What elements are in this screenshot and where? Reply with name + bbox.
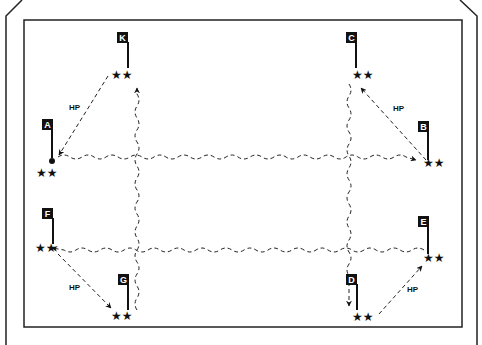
- station-a: A ★★: [36, 119, 58, 180]
- start-point-dot: [49, 158, 55, 164]
- wavy-path-top: [58, 155, 416, 160]
- hp-path-b-to-c: [361, 88, 426, 160]
- hp-path-k-to-a: [59, 76, 108, 155]
- star-icon: ★★: [423, 251, 445, 265]
- hp-label-top-right: HP: [393, 104, 405, 113]
- station-f: F ★★: [35, 208, 57, 255]
- station-label-d: D: [348, 275, 355, 285]
- hp-label-bottom-right: HP: [407, 285, 419, 294]
- station-label-a: A: [44, 120, 51, 130]
- star-icon: ★★: [111, 68, 133, 82]
- wavy-path-left-vertical: [135, 88, 139, 310]
- star-icon: ★★: [36, 166, 58, 180]
- star-icon: ★★: [423, 156, 445, 170]
- station-c: C ★★: [346, 32, 374, 82]
- station-b: B ★★: [418, 121, 445, 170]
- station-e: E ★★: [418, 216, 445, 265]
- station-k: K ★★: [111, 32, 133, 82]
- station-d: D ★★: [346, 274, 374, 324]
- station-label-k: K: [119, 33, 126, 43]
- hp-label-top-left: HP: [69, 103, 81, 112]
- station-label-c: C: [348, 33, 355, 43]
- star-icon: ★★: [35, 241, 57, 255]
- star-icon: ★★: [352, 68, 374, 82]
- station-label-g: G: [120, 275, 127, 285]
- wavy-path-bottom: [52, 248, 424, 252]
- hp-label-bottom-left: HP: [69, 283, 81, 292]
- star-icon: ★★: [352, 310, 374, 324]
- inner-field: [24, 20, 462, 327]
- diagram-canvas: A ★★ B ★★ C ★★ D ★★ E ★★ F ★★ G: [0, 0, 482, 345]
- hp-path-f-to-g: [58, 254, 111, 308]
- wavy-path-right-vertical: [347, 84, 351, 284]
- station-g: G ★★: [111, 274, 133, 323]
- station-label-e: E: [420, 217, 426, 227]
- station-label-f: F: [45, 209, 51, 219]
- star-icon: ★★: [111, 309, 133, 323]
- station-label-b: B: [420, 122, 427, 132]
